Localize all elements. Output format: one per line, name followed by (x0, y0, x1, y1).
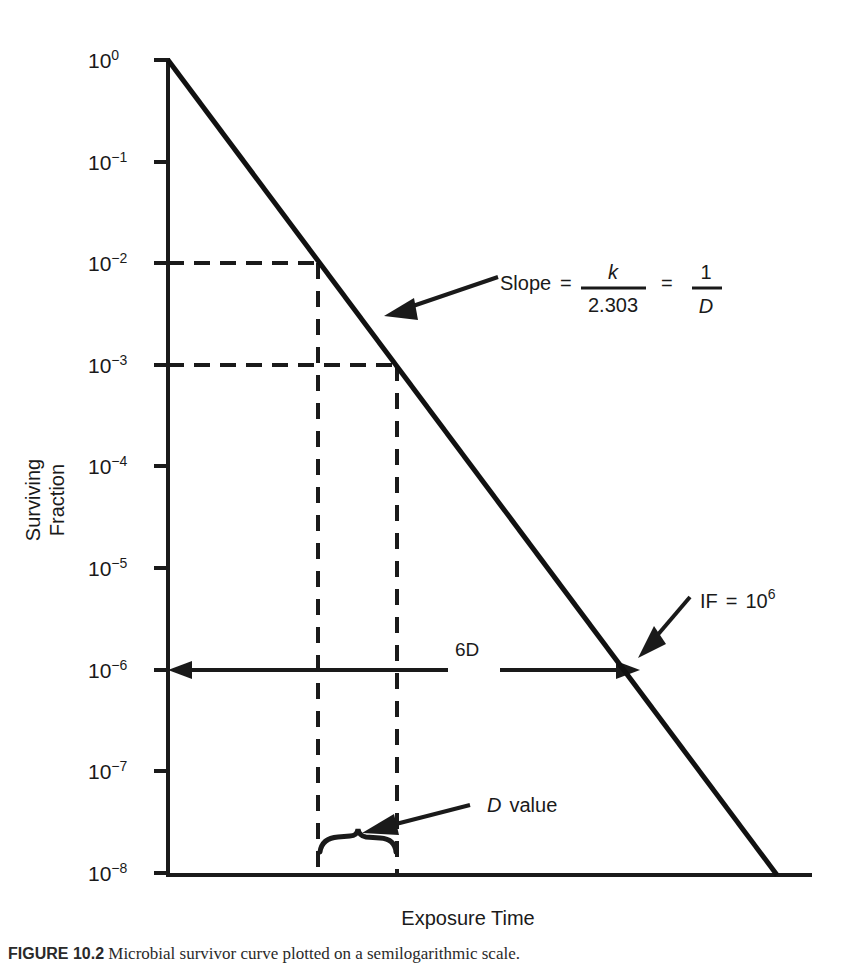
if-arrow-shaft (655, 597, 690, 638)
y-axis-title-line-2: Fraction (46, 464, 68, 536)
y-axis-title-line-1: Surviving (22, 459, 44, 541)
slope-arrowhead (384, 298, 418, 320)
figure-caption-label: FIGURE 10.2 (8, 945, 104, 962)
slope-denominator: 2.303 (588, 294, 638, 316)
construction-dashed-lines (168, 263, 397, 875)
tick-label-2: 10−2 (88, 250, 128, 275)
d-value-annotation: Dvalue (320, 794, 557, 852)
slope-equals-1: = (560, 272, 572, 294)
slope-annotation-arrow (384, 277, 498, 320)
slope-lead-label: Slope (500, 272, 551, 294)
six-d-label: 6D (455, 639, 479, 660)
d-value-arrowhead (362, 814, 399, 835)
figure-caption-text: Microbial survivor curve plotted on a se… (108, 944, 520, 963)
figure-container: 100 10−1 10−2 10−3 10−4 10−5 10−6 10−7 (0, 0, 852, 963)
slope-numerator: k (608, 261, 619, 283)
d-value-label: Dvalue (487, 794, 557, 816)
y-axis-tick-labels: 100 10−1 10−2 10−3 10−4 10−5 10−6 10−7 (88, 47, 128, 885)
six-d-arrowhead-left (168, 661, 192, 679)
y-axis-title: Surviving Fraction (22, 459, 68, 541)
tick-label-6: 10−6 (88, 657, 128, 682)
tick-label-4: 10−4 (88, 453, 128, 478)
six-d-measure-arrow: 6D (168, 639, 640, 679)
tick-label-5: 10−5 (88, 555, 128, 580)
y-axis-ticks (154, 60, 168, 873)
x-axis-title: Exposure Time (401, 907, 534, 929)
d-value-arrow-shaft (392, 805, 470, 825)
slope-formula-annotation: Slope = k 2.303 = 1 D (500, 261, 722, 317)
survivor-curve-chart: 100 10−1 10−2 10−3 10−4 10−5 10−6 10−7 (0, 0, 852, 963)
figure-caption: FIGURE 10.2 Microbial survivor curve plo… (8, 944, 852, 963)
slope-arrow-shaft (410, 277, 498, 307)
tick-label-0: 100 (88, 47, 119, 72)
inactivation-factor-annotation: IF=106 (638, 586, 776, 658)
tick-label-1: 10−1 (88, 149, 128, 174)
if-label: IF=106 (700, 586, 776, 612)
tick-label-3: 10−3 (88, 352, 128, 377)
survivor-curve-line (168, 60, 777, 875)
slope-frac2-denominator: D (699, 295, 713, 317)
tick-label-7: 10−7 (88, 758, 128, 783)
slope-frac2-numerator: 1 (700, 261, 711, 283)
slope-equals-2: = (661, 272, 673, 294)
tick-label-8: 10−8 (88, 860, 128, 885)
